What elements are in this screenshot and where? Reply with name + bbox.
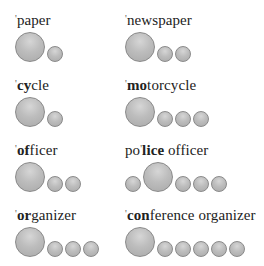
stress-mark: '	[15, 78, 17, 89]
stressed-syllable-circle	[125, 227, 155, 257]
syllable-circles	[15, 32, 63, 62]
syllable-circle	[175, 176, 191, 192]
syllable-circle	[193, 241, 209, 257]
syllable-circle	[175, 241, 191, 257]
syllable-circles	[125, 97, 209, 127]
stressed-syllable-circle	[15, 162, 45, 192]
word-item-organizer: 'organizer	[15, 207, 76, 223]
stressed-syllable-circle	[125, 32, 155, 62]
stress-mark: '	[125, 13, 127, 24]
syllable-circle	[157, 111, 173, 127]
stressed-syllable-circle	[143, 162, 173, 192]
syllable-circle	[211, 241, 227, 257]
syllable-circle	[47, 176, 63, 192]
word-label: 'officer	[15, 142, 58, 158]
syllable-circle	[175, 111, 191, 127]
syllable-circle	[211, 176, 227, 192]
syllable-circle	[175, 46, 191, 62]
word-item-paper: 'paper	[15, 12, 51, 28]
word-label: 'conference organizer	[125, 207, 256, 223]
syllable-circles	[15, 227, 99, 257]
word-label: 'motorcycle	[125, 77, 196, 93]
stressed-syllable-circle	[15, 32, 45, 62]
word-item-motorcycle: 'motorcycle	[125, 77, 196, 93]
syllable-circle	[65, 176, 81, 192]
word-label: 'cycle	[15, 77, 49, 93]
word-item-cycle: 'cycle	[15, 77, 49, 93]
syllable-circles	[125, 32, 191, 62]
word-item-conference-organizer: 'conference organizer	[125, 207, 256, 223]
syllable-circle	[193, 111, 209, 127]
word-item-newspaper: 'newspaper	[125, 12, 192, 28]
syllable-circle	[47, 111, 63, 127]
syllable-circle	[47, 241, 63, 257]
word-label: 'paper	[15, 12, 51, 28]
stress-mark: '	[140, 143, 142, 154]
stress-mark: '	[15, 208, 17, 219]
syllable-circle	[125, 176, 141, 192]
stress-mark: '	[15, 13, 17, 24]
stressed-syllable-circle	[15, 227, 45, 257]
syllable-circles	[125, 162, 227, 192]
word-label: 'newspaper	[125, 12, 192, 28]
syllable-circle	[65, 241, 81, 257]
stress-mark: '	[15, 143, 17, 154]
stressed-syllable-circle	[15, 97, 45, 127]
stress-mark: '	[125, 78, 127, 89]
syllable-circle	[157, 46, 173, 62]
syllable-circle	[83, 241, 99, 257]
syllable-circle	[157, 241, 173, 257]
stress-mark: '	[125, 208, 127, 219]
syllable-circles	[15, 97, 63, 127]
word-label: 'organizer	[15, 207, 76, 223]
word-label: po'lice officer	[125, 142, 208, 158]
syllable-circles	[15, 162, 81, 192]
word-item-officer: 'officer	[15, 142, 58, 158]
syllable-circle	[47, 46, 63, 62]
syllable-circle	[229, 241, 245, 257]
syllable-circle	[193, 176, 209, 192]
syllable-circles	[125, 227, 245, 257]
word-item-police-officer: po'lice officer	[125, 142, 208, 158]
stressed-syllable-circle	[125, 97, 155, 127]
